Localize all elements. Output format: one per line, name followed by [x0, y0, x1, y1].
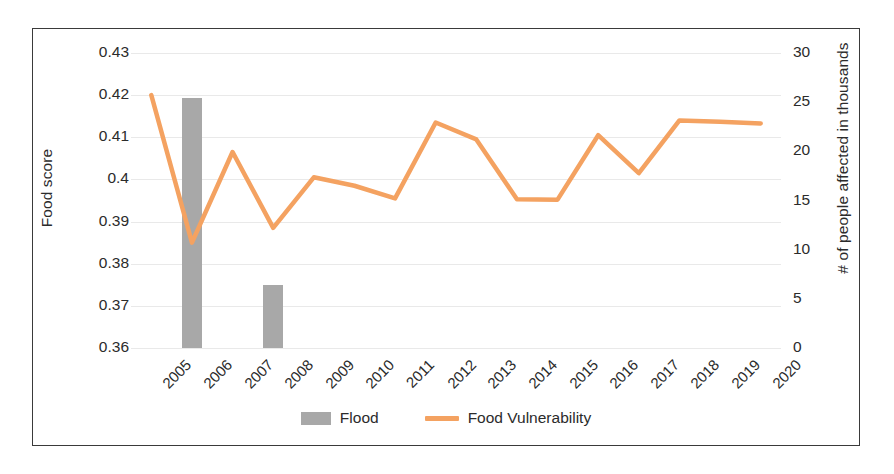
- x-axis-tick-label: 2015: [565, 356, 601, 392]
- gridline: [131, 348, 781, 349]
- x-axis-tick-label: 2016: [606, 356, 642, 392]
- legend-label-food-vulnerability: Food Vulnerability: [468, 409, 592, 427]
- y-axis-right-tick-label: 15: [793, 191, 837, 209]
- y-axis-left-tick-label: 0.4: [59, 169, 129, 187]
- x-axis-tick-label: 2017: [647, 356, 683, 392]
- legend-label-flood: Flood: [340, 409, 379, 427]
- x-axis-tick-label: 2010: [362, 356, 398, 392]
- x-axis-tick-label: 2005: [159, 356, 195, 392]
- y-axis-left-tick-label: 0.42: [59, 85, 129, 103]
- legend-line-swatch-icon: [425, 416, 459, 421]
- x-axis-tick-label: 2012: [443, 356, 479, 392]
- chart-container: Food score # of people affected in thous…: [32, 28, 860, 446]
- x-axis-tick-label: 2019: [728, 356, 764, 392]
- x-axis-tick-label: 2018: [687, 356, 723, 392]
- y-axis-right-tick-label: 0: [793, 338, 837, 356]
- x-axis-tick-label: 2011: [403, 356, 438, 391]
- x-axis-tick-label: 2020: [768, 356, 804, 392]
- line-series-food-vulnerability: [131, 53, 781, 348]
- y-axis-left-tick-label: 0.41: [59, 127, 129, 145]
- y-axis-right-tick-label: 30: [793, 43, 837, 61]
- legend-bar-swatch-icon: [301, 412, 331, 425]
- legend-item-food-vulnerability: Food Vulnerability: [425, 409, 592, 427]
- x-axis-tick-label: 2013: [484, 356, 520, 392]
- y-axis-right-tick-label: 5: [793, 289, 837, 307]
- y-axis-right-tick-label: 25: [793, 92, 837, 110]
- y-axis-left-tick-label: 0.38: [59, 254, 129, 272]
- y-axis-left-tick-label: 0.36: [59, 338, 129, 356]
- y-axis-right-tick-label: 20: [793, 141, 837, 159]
- x-axis-tick-label: 2006: [200, 356, 236, 392]
- y-axis-left-title: Food score: [38, 78, 56, 298]
- y-axis-left-tick-label: 0.37: [59, 296, 129, 314]
- x-axis-tick-label: 2014: [525, 356, 561, 392]
- x-axis-tick-label: 2007: [240, 356, 276, 392]
- legend-item-flood: Flood: [301, 409, 379, 427]
- y-axis-left-tick-label: 0.39: [59, 212, 129, 230]
- chart-legend: Flood Food Vulnerability: [33, 409, 859, 427]
- y-axis-right-tick-label: 10: [793, 240, 837, 258]
- x-axis-tick-label: 2008: [281, 356, 317, 392]
- plot-area: 0.360.370.380.390.40.410.420.43 05101520…: [131, 53, 781, 348]
- x-axis-tick-label: 2009: [322, 356, 358, 392]
- y-axis-left-tick-label: 0.43: [59, 43, 129, 61]
